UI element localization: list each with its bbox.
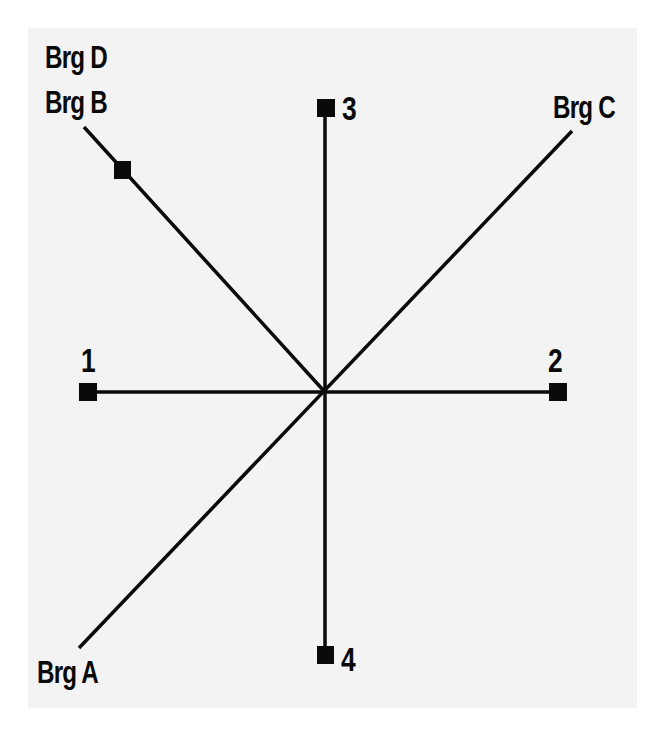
point-2-marker	[549, 383, 567, 401]
label-point-2: 2	[548, 344, 562, 377]
label-point-3: 3	[342, 92, 356, 125]
label-point-4: 4	[341, 643, 355, 676]
label-brg-d: Brg D	[45, 42, 107, 73]
bearing-b-marker	[114, 161, 131, 179]
label-point-1: 1	[81, 344, 95, 377]
point-3-marker	[317, 99, 335, 117]
point-1-marker	[79, 383, 97, 401]
point-4-marker	[317, 646, 334, 664]
label-brg-b: Brg B	[45, 87, 107, 118]
label-brg-a: Brg A	[37, 657, 98, 688]
label-brg-c: Brg C	[553, 92, 615, 123]
